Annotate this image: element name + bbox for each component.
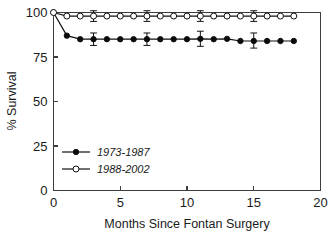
open-circle-marker: [144, 13, 150, 19]
chart-canvas: 0255075100 05101520 1973-19871988-2002 M…: [0, 0, 335, 236]
survival-chart-figure: 0255075100 05101520 1973-19871988-2002 M…: [0, 0, 335, 236]
legend-label: 1973-1987: [97, 146, 150, 158]
y-tick-label: 100: [26, 5, 48, 20]
y-tick-label: 25: [33, 139, 47, 154]
filled-circle-marker: [171, 37, 176, 42]
filled-circle-marker: [131, 37, 136, 42]
filled-circle-marker: [64, 33, 69, 38]
open-circle-marker: [264, 13, 270, 19]
x-tick-label: 0: [50, 195, 57, 210]
open-circle-marker: [91, 13, 97, 19]
open-circle-marker: [197, 13, 203, 19]
open-circle-marker: [211, 13, 217, 19]
x-tick-label: 15: [247, 195, 261, 210]
x-tick-label: 10: [180, 195, 194, 210]
filled-circle-marker: [198, 36, 203, 41]
x-axis-title: Months Since Fontan Surgery: [104, 217, 270, 231]
legend-label: 1988-2002: [97, 163, 150, 175]
filled-circle-marker: [104, 37, 109, 42]
filled-circle-marker: [278, 38, 283, 43]
open-circle-marker: [77, 13, 83, 19]
open-circle-marker: [131, 13, 137, 19]
legend-open-circle-marker: [73, 166, 79, 172]
open-circle-marker: [64, 13, 70, 19]
open-circle-marker: [224, 13, 230, 19]
filled-circle-marker: [91, 37, 96, 42]
y-tick-label: 75: [33, 50, 47, 65]
y-tick-label: 0: [40, 183, 47, 198]
filled-circle-marker: [238, 38, 243, 43]
open-circle-marker: [171, 13, 177, 19]
filled-circle-marker: [118, 37, 123, 42]
filled-circle-marker: [264, 38, 269, 43]
y-tick-label: 50: [33, 94, 47, 109]
filled-circle-marker: [78, 37, 83, 42]
filled-circle-marker: [184, 37, 189, 42]
y-axis-title: % Survival: [5, 71, 19, 130]
x-tick-label: 20: [313, 195, 327, 210]
legend-filled-circle-marker: [73, 149, 78, 154]
x-tick-label: 5: [117, 195, 124, 210]
filled-circle-marker: [158, 37, 163, 42]
filled-circle-marker: [211, 37, 216, 42]
filled-circle-marker: [251, 38, 256, 43]
open-circle-marker: [157, 13, 163, 19]
open-circle-marker: [277, 13, 283, 19]
filled-circle-marker: [224, 36, 229, 41]
open-circle-marker: [104, 13, 110, 19]
open-circle-marker: [251, 13, 257, 19]
filled-circle-marker: [144, 37, 149, 42]
open-circle-marker: [291, 13, 297, 19]
filled-circle-marker: [291, 38, 296, 43]
open-circle-marker: [117, 13, 123, 19]
open-circle-marker: [51, 10, 57, 16]
open-circle-marker: [184, 13, 190, 19]
open-circle-marker: [237, 13, 243, 19]
